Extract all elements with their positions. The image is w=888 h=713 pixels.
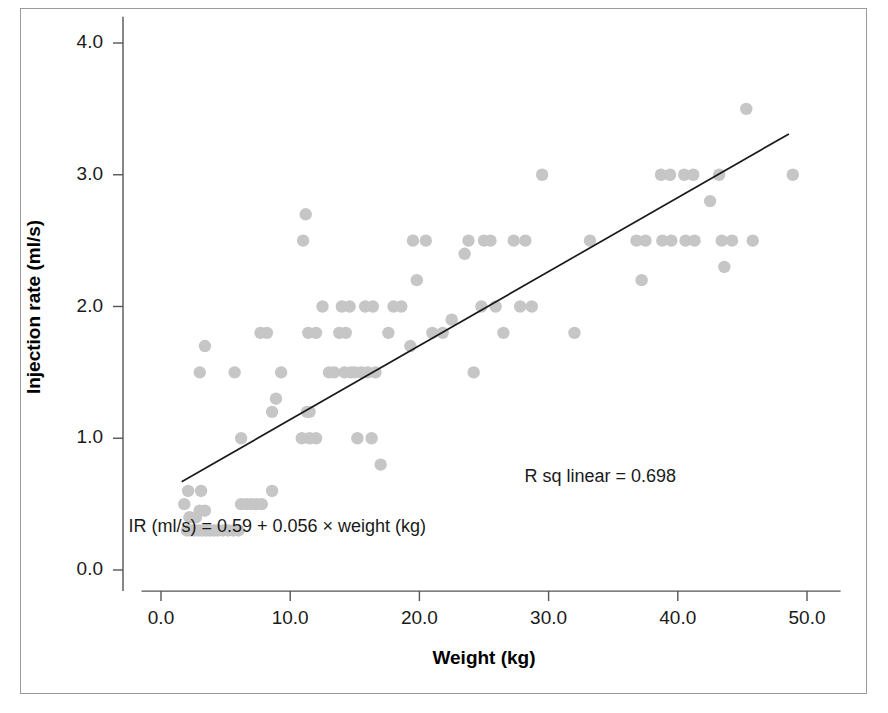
data-point bbox=[536, 169, 548, 181]
y-tick-label: 2.0 bbox=[0, 295, 103, 317]
data-point bbox=[519, 234, 531, 246]
y-tick-label: 1.0 bbox=[0, 426, 103, 448]
data-point bbox=[514, 300, 526, 312]
data-point bbox=[704, 195, 716, 207]
figure-container: 0.01.02.03.04.00.010.020.030.040.050.0 I… bbox=[0, 0, 888, 713]
data-point bbox=[367, 300, 379, 312]
data-point bbox=[740, 103, 752, 115]
data-point bbox=[747, 234, 759, 246]
data-point bbox=[726, 234, 738, 246]
data-point bbox=[261, 327, 273, 339]
data-point bbox=[340, 327, 352, 339]
data-point bbox=[228, 366, 240, 378]
data-point bbox=[297, 234, 309, 246]
data-point bbox=[458, 248, 470, 260]
fit-line-group bbox=[182, 134, 789, 482]
data-point bbox=[411, 274, 423, 286]
data-point bbox=[568, 327, 580, 339]
data-point bbox=[310, 432, 322, 444]
data-point bbox=[687, 169, 699, 181]
scatter-plot-canvas bbox=[0, 0, 888, 713]
y-tick-label: 3.0 bbox=[0, 163, 103, 185]
data-point bbox=[664, 169, 676, 181]
data-point bbox=[462, 234, 474, 246]
data-point bbox=[316, 300, 328, 312]
y-tick-label: 0.0 bbox=[0, 558, 103, 580]
data-point bbox=[194, 366, 206, 378]
linear-fit-line bbox=[182, 134, 789, 482]
data-point bbox=[199, 340, 211, 352]
data-point bbox=[256, 498, 268, 510]
x-axis-title: Weight (kg) bbox=[432, 647, 535, 669]
data-point bbox=[351, 432, 363, 444]
x-tick-label: 50.0 bbox=[757, 607, 857, 629]
r-squared-annotation: R sq linear = 0.698 bbox=[524, 466, 676, 487]
regression-equation-annotation: IR (ml/s) = 0.59 + 0.056 × weight (kg) bbox=[128, 516, 426, 537]
data-point bbox=[665, 234, 677, 246]
data-point bbox=[526, 300, 538, 312]
x-tick-label: 10.0 bbox=[240, 607, 340, 629]
data-point bbox=[374, 458, 386, 470]
data-point bbox=[310, 327, 322, 339]
data-point bbox=[787, 169, 799, 181]
data-point bbox=[195, 485, 207, 497]
data-point bbox=[275, 366, 287, 378]
x-tick-label: 30.0 bbox=[499, 607, 599, 629]
data-point bbox=[484, 234, 496, 246]
data-points-group bbox=[178, 103, 799, 537]
y-axis-title: Injection rate (ml/s) bbox=[23, 219, 45, 393]
data-point bbox=[182, 485, 194, 497]
data-point bbox=[270, 393, 282, 405]
data-point bbox=[407, 234, 419, 246]
data-point bbox=[266, 485, 278, 497]
x-tick-label: 20.0 bbox=[369, 607, 469, 629]
data-point bbox=[300, 208, 312, 220]
data-point bbox=[718, 261, 730, 273]
x-tick-label: 40.0 bbox=[628, 607, 728, 629]
data-point bbox=[467, 366, 479, 378]
data-point bbox=[497, 327, 509, 339]
y-tick-label: 4.0 bbox=[0, 31, 103, 53]
data-point bbox=[508, 234, 520, 246]
data-point bbox=[688, 234, 700, 246]
data-point bbox=[235, 432, 247, 444]
data-point bbox=[420, 234, 432, 246]
x-tick-label: 0.0 bbox=[111, 607, 211, 629]
data-point bbox=[365, 432, 377, 444]
data-point bbox=[382, 327, 394, 339]
data-point bbox=[635, 274, 647, 286]
data-point bbox=[178, 498, 190, 510]
data-point bbox=[343, 300, 355, 312]
data-point bbox=[395, 300, 407, 312]
data-point bbox=[639, 234, 651, 246]
data-point bbox=[266, 406, 278, 418]
